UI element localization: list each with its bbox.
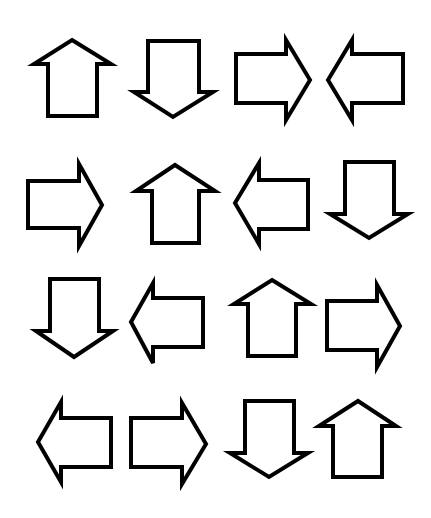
arrow-up-icon: [34, 40, 111, 116]
arrow-left-icon: [131, 283, 203, 363]
arrow-right-icon: [131, 403, 206, 484]
arrow-right-icon: [236, 40, 310, 120]
arrow-left-icon: [38, 402, 111, 482]
arrow-down-icon: [36, 279, 113, 357]
arrow-down-icon: [230, 401, 308, 477]
arrow-left-icon: [328, 40, 403, 120]
arrow-right-icon: [327, 285, 400, 367]
arrow-grid: [0, 0, 431, 518]
arrow-down-icon: [330, 162, 408, 238]
arrow-up-icon: [136, 165, 215, 243]
arrow-up-icon: [319, 401, 396, 477]
arrow-down-icon: [134, 41, 213, 117]
arrow-up-icon: [234, 280, 311, 356]
arrow-right-icon: [28, 164, 102, 246]
arrow-left-icon: [235, 163, 308, 244]
arrow-grid-svg: [0, 0, 431, 518]
